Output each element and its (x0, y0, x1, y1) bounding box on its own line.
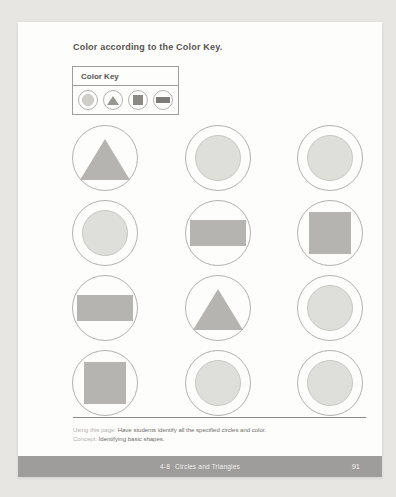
key-circle-icon (78, 90, 98, 110)
lesson-name: Circles and Triangles (175, 463, 240, 470)
footer-notes: Using this page: Have students identify … (73, 426, 266, 443)
rectangle-glyph-icon (156, 97, 170, 103)
triangle-shape (193, 289, 243, 330)
using-this-page-line: Using this page: Have students identify … (73, 426, 266, 435)
grid-cell-6-square (297, 200, 363, 266)
grid-cell-3-circle (297, 125, 363, 191)
color-key-icons (73, 86, 178, 114)
lesson-title: 4-8 Circles and Triangles (160, 463, 240, 470)
key-rectangle-icon (153, 90, 173, 110)
square-shape (309, 212, 351, 254)
circle-shape (307, 135, 353, 181)
circle-shape (307, 285, 353, 331)
lesson-number: 4-8 (160, 463, 170, 470)
grid-cell-1-triangle (72, 125, 138, 191)
circle-shape (82, 210, 128, 256)
rectangle-shape (77, 295, 133, 321)
circle-shape (195, 360, 241, 406)
circle-shape (307, 360, 353, 406)
worksheet-page: Color according to the Color Key. Color … (18, 22, 382, 477)
shape-grid (72, 125, 363, 416)
concept-label: Concept: (73, 436, 97, 442)
color-key-label: Color Key (73, 67, 178, 86)
triangle-glyph-icon (107, 96, 119, 105)
triangle-shape (80, 139, 130, 180)
circle-shape (195, 135, 241, 181)
rectangle-shape (190, 220, 246, 246)
footer-divider (73, 417, 366, 418)
grid-cell-2-circle (185, 125, 251, 191)
grid-cell-11-circle (185, 350, 251, 416)
grid-cell-7-rectangle (72, 275, 138, 341)
using-this-page-text: Have students identify all the specified… (118, 427, 266, 433)
concept-text: Identifying basic shapes. (99, 436, 165, 442)
grid-cell-9-circle (297, 275, 363, 341)
using-this-page-label: Using this page: (73, 427, 116, 433)
grid-cell-8-triangle (185, 275, 251, 341)
key-square-icon (128, 90, 148, 110)
grid-cell-4-circle (72, 200, 138, 266)
footer-bar: 4-8 Circles and Triangles 91 (18, 456, 382, 477)
concept-line: Concept: Identifying basic shapes. (73, 435, 266, 444)
key-triangle-icon (103, 90, 123, 110)
square-shape (84, 362, 126, 404)
grid-cell-12-circle (297, 350, 363, 416)
color-key-box: Color Key (72, 66, 179, 115)
page-number: 91 (352, 456, 360, 477)
grid-cell-10-square (72, 350, 138, 416)
circle-glyph-icon (82, 94, 94, 106)
square-glyph-icon (133, 95, 143, 105)
instruction-text: Color according to the Color Key. (73, 42, 222, 52)
grid-cell-5-rectangle (185, 200, 251, 266)
